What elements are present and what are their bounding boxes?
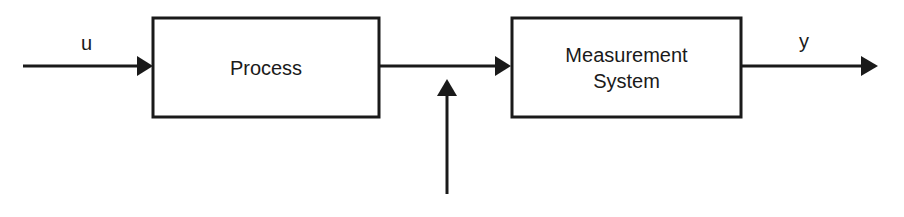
- input-arrow: [23, 56, 153, 76]
- measurement-block-label: Measurement System: [512, 18, 741, 117]
- disturbance-arrow: [437, 79, 457, 194]
- process-block-label: Process: [153, 18, 379, 117]
- input-signal-label: u: [81, 32, 92, 55]
- measurement-label-line1: Measurement: [565, 42, 687, 68]
- block-diagram: [0, 0, 904, 217]
- process-label-text: Process: [230, 55, 302, 81]
- output-signal-label: y: [799, 30, 809, 53]
- link-arrow: [379, 56, 511, 76]
- measurement-label-line2: System: [593, 68, 660, 94]
- output-arrow: [741, 56, 878, 76]
